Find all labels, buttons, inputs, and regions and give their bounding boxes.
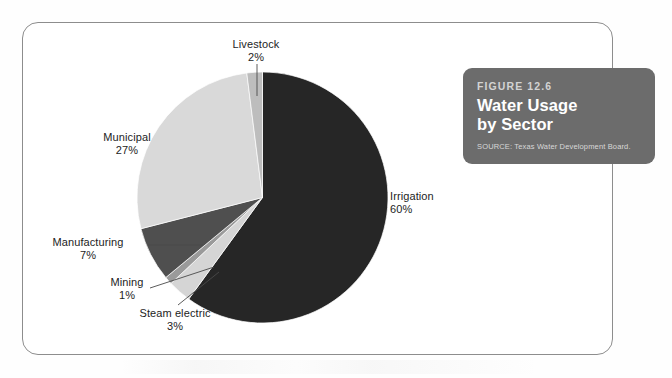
pie-label-livestock-value: 2% <box>196 51 316 64</box>
scan-artifact <box>120 360 540 374</box>
pie-label-manufacturing: Manufacturing 7% <box>28 236 148 262</box>
pie-label-livestock-name: Livestock <box>196 38 316 51</box>
pie-label-steam-electric: Steam electric 3% <box>110 307 240 333</box>
figure-source: SOURCE: Texas Water Development Board. <box>477 142 641 151</box>
figure-title: Water Usage by Sector <box>477 96 641 134</box>
pie-label-municipal-value: 27% <box>72 144 182 157</box>
pie-label-mining: Mining 1% <box>92 276 162 302</box>
pie-label-manufacturing-name: Manufacturing <box>28 236 148 249</box>
pie-label-irrigation-name: Irrigation <box>390 190 480 203</box>
pie-label-mining-name: Mining <box>92 276 162 289</box>
pie-slice-group <box>137 72 388 323</box>
figure-number: FIGURE 12.6 <box>477 80 641 92</box>
pie-label-steam-electric-value: 3% <box>110 320 240 333</box>
pie-label-livestock: Livestock 2% <box>196 38 316 64</box>
pie-label-irrigation-value: 60% <box>390 203 480 216</box>
pie-label-municipal-name: Municipal <box>72 131 182 144</box>
pie-chart-svg <box>137 72 388 323</box>
pie-label-manufacturing-value: 7% <box>28 249 148 262</box>
pie-chart <box>137 72 388 323</box>
pie-label-steam-electric-name: Steam electric <box>110 307 240 320</box>
figure-title-line2: by Sector <box>477 115 553 133</box>
figure-caption-box: FIGURE 12.6 Water Usage by Sector SOURCE… <box>463 68 655 164</box>
pie-label-mining-value: 1% <box>92 289 162 302</box>
figure-title-line1: Water Usage <box>477 96 577 114</box>
pie-label-municipal: Municipal 27% <box>72 131 182 157</box>
pie-label-irrigation: Irrigation 60% <box>390 190 480 216</box>
